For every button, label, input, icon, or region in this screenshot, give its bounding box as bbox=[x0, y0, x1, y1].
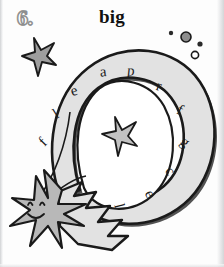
small-star-top-left bbox=[22, 38, 56, 76]
dot-cluster-top-right bbox=[169, 31, 203, 59]
worksheet-page: 6. big bbox=[0, 0, 224, 267]
spiral-letter[interactable]: a bbox=[99, 64, 107, 80]
comet-spiral-illustration bbox=[0, 0, 224, 267]
spiral-letter[interactable]: p bbox=[126, 63, 135, 79]
spiral-inner-well bbox=[77, 81, 173, 209]
